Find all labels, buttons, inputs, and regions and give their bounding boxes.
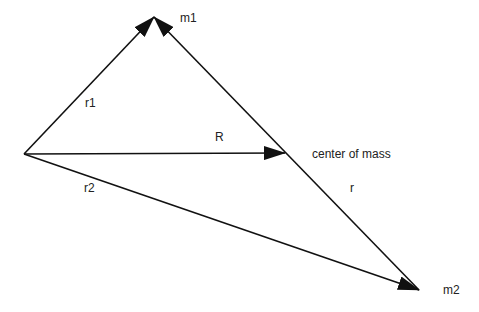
vector-r2 <box>24 154 419 290</box>
label-r: r <box>350 182 354 194</box>
vector-diagram <box>0 0 479 312</box>
diagram-canvas: m1 r1 R center of mass r r2 m2 <box>0 0 479 312</box>
label-center-of-mass: center of mass <box>312 148 391 160</box>
label-r2: r2 <box>84 182 95 194</box>
label-R: R <box>215 131 224 143</box>
label-r1: r1 <box>85 97 96 109</box>
vector-r1 <box>24 17 154 154</box>
label-m2: m2 <box>443 284 460 296</box>
label-m1: m1 <box>180 12 197 24</box>
vector-R <box>24 153 285 154</box>
